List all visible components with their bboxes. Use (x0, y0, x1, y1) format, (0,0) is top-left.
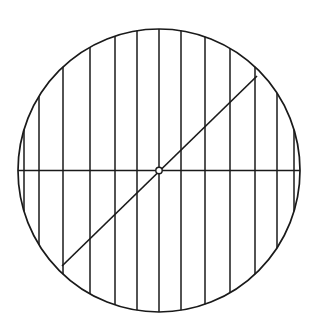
diagram-canvas (0, 0, 319, 333)
center-point-marker (156, 167, 162, 173)
circle-chords-diagram (0, 0, 319, 333)
